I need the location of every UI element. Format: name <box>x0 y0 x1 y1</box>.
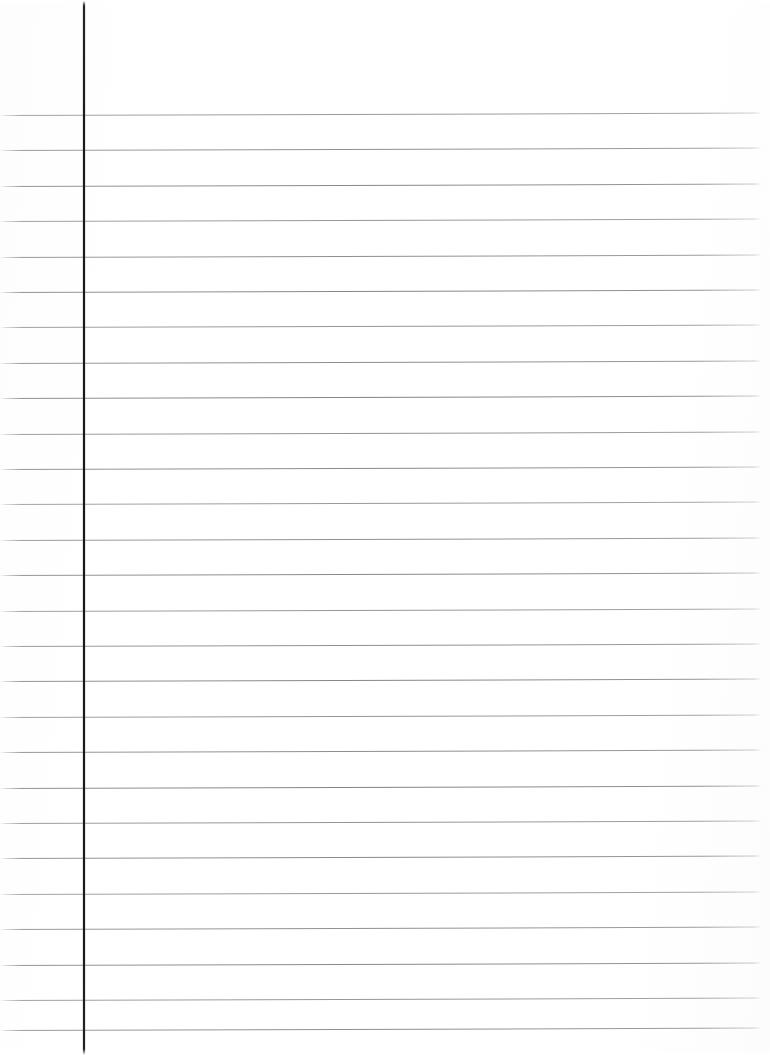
lined-paper-page: Blank ruled notebook page <box>0 0 770 1055</box>
ruled-line <box>0 927 762 930</box>
ruled-line <box>0 396 762 399</box>
ruled-line <box>0 714 762 717</box>
ruled-line <box>0 360 762 363</box>
ruled-line <box>0 962 762 965</box>
ruled-line <box>0 608 762 611</box>
ruled-line <box>0 537 762 540</box>
ruled-line <box>0 750 762 753</box>
ruled-lines-layer <box>0 0 770 1055</box>
ruled-line <box>0 431 762 434</box>
ruled-line <box>0 325 762 328</box>
ruled-line <box>0 821 762 824</box>
ruled-line <box>0 502 762 505</box>
ruled-line <box>0 254 762 257</box>
left-margin-rule <box>83 0 85 1055</box>
ruled-line <box>0 644 762 647</box>
ruled-line <box>0 785 762 788</box>
ruled-line <box>0 113 762 116</box>
ruled-line <box>0 148 762 151</box>
ruled-line <box>0 183 762 186</box>
ruled-line <box>0 467 762 470</box>
ruled-line <box>0 998 762 1001</box>
ruled-line <box>0 573 762 576</box>
ruled-line <box>0 679 762 682</box>
ruled-line <box>0 290 762 293</box>
ruled-line <box>0 891 762 894</box>
ruled-line <box>0 219 762 222</box>
ruled-line <box>0 1028 762 1031</box>
ruled-line <box>0 856 762 859</box>
